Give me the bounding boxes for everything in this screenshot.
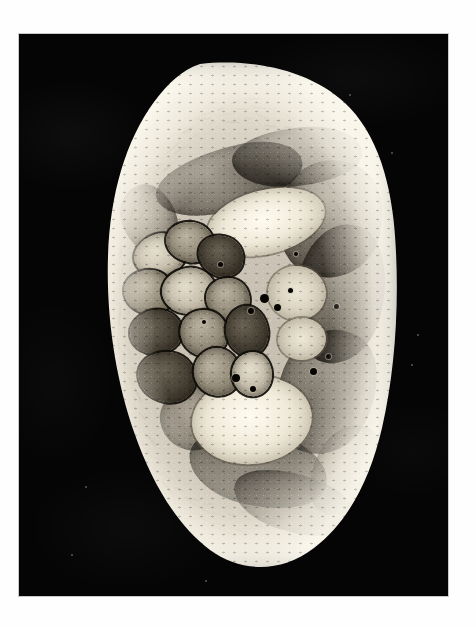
fascia-streak [200, 518, 209, 521]
vessel-lumen [310, 368, 317, 375]
fascia-streak [202, 503, 214, 505]
fascia-streak [183, 496, 202, 502]
fascia-streak [183, 508, 198, 516]
fascia-streak [146, 434, 156, 448]
plate-speck [417, 334, 419, 336]
fascia-streak [249, 106, 268, 111]
fascia-streak [134, 387, 143, 402]
vessel-lumen [326, 354, 331, 359]
fascia-streak [122, 350, 125, 370]
fascia-streak [139, 413, 146, 421]
fascia-streak [241, 98, 263, 101]
page-sheet [0, 0, 476, 627]
fascia-streak [211, 522, 229, 525]
photographic-plate [19, 34, 448, 596]
fascia-streak [192, 133, 199, 138]
fascia-streak [119, 261, 125, 283]
fascia-streak [205, 121, 218, 127]
fascia-streak [115, 291, 117, 306]
fascia-streak [161, 143, 167, 151]
fascia-streak [160, 471, 175, 482]
fascia-streak [195, 117, 212, 121]
plate-speck [71, 554, 73, 556]
fascia-streak [209, 511, 224, 517]
fascia-streak [208, 101, 219, 104]
fascia-streak [217, 528, 237, 537]
vessel-lumen [250, 386, 256, 392]
fascia-streak [182, 126, 194, 134]
fascia-streak [127, 346, 134, 362]
fascia-streak [155, 457, 162, 464]
fascia-streak [173, 145, 186, 157]
vessel-lumen [288, 288, 293, 293]
lobule [126, 305, 186, 359]
fascia-streak [235, 529, 249, 534]
fascia-streak [172, 144, 190, 154]
fascia-streak [182, 130, 192, 135]
fascia-streak [153, 162, 164, 175]
fascia-streak [264, 125, 277, 129]
vessel-lumen [334, 304, 339, 309]
fascia-streak [116, 367, 120, 374]
fascia-streak [123, 377, 128, 390]
fascia-streak [255, 524, 262, 526]
vessel-lumen [202, 320, 206, 324]
vessel-lumen [260, 294, 269, 303]
fascia-streak [217, 106, 225, 111]
plate-speck [411, 364, 413, 366]
fascia-streak [164, 459, 174, 470]
fascia-streak [124, 408, 135, 429]
fascia-streak [231, 522, 242, 524]
vessel-lumen [274, 304, 281, 311]
fascia-streak [140, 439, 152, 457]
vessel-lumen [218, 262, 223, 267]
fascia-streak [164, 140, 182, 155]
vessel-lumen [294, 252, 298, 256]
fascia-streak [229, 99, 244, 105]
fascia-streak [141, 164, 157, 175]
fascia-streak [193, 111, 212, 119]
fascia-streak [227, 513, 235, 516]
fascia-streak [128, 377, 134, 386]
plate-speck [349, 94, 351, 96]
fascia-streak [236, 109, 248, 110]
fascia-streak [174, 487, 184, 493]
fascia-streak [127, 399, 140, 414]
fascia-streak [176, 476, 182, 481]
fascia-streak [281, 112, 296, 122]
fascia-streak [217, 112, 238, 117]
fascia-streak [116, 337, 119, 351]
vessel-lumen [232, 374, 240, 382]
fascia-streak [141, 430, 156, 443]
fascia-streak [269, 108, 279, 113]
fascia-streak [192, 503, 212, 515]
fascia-streak [161, 480, 175, 496]
fascia-streak [152, 469, 162, 476]
fascia-streak [118, 305, 122, 326]
fascia-streak [255, 113, 270, 121]
plate-speck [85, 486, 87, 488]
anatomical-cross-section-specimen [82, 56, 402, 576]
vessel-lumen [248, 308, 254, 314]
fascia-streak [118, 243, 123, 259]
fascia-streak [243, 116, 252, 120]
fascia-streak [274, 119, 281, 121]
fascia-streak [184, 496, 195, 506]
fascia-streak [123, 328, 127, 339]
fascia-streak [136, 423, 141, 435]
plate-speck [391, 152, 393, 154]
plate-speck [205, 580, 207, 582]
fascia-streak [222, 120, 240, 123]
